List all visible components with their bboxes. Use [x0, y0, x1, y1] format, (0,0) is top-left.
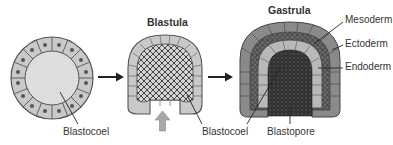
early-blastula [11, 37, 93, 124]
label-ectoderm: Ectoderm [345, 39, 388, 49]
label-blastopore: Blastopore [267, 127, 315, 137]
gastrula [240, 22, 343, 124]
gastrula-title: Gastrula [268, 5, 311, 16]
progression-arrow-2 [208, 73, 233, 82]
diagram-canvas [0, 0, 393, 145]
embryo-development-diagram: Blastula Gastrula Blastocoel Blastocoel … [0, 0, 393, 145]
label-blastocoel-2: Blastocoel [202, 127, 248, 137]
label-mesoderm: Mesoderm [345, 15, 392, 25]
label-endoderm: Endoderm [345, 62, 391, 72]
progression-arrow-1 [98, 73, 124, 82]
label-blastocoel-1: Blastocoel [63, 127, 109, 137]
invagination-arrow [155, 111, 170, 131]
blastula [128, 35, 202, 124]
blastula-title: Blastula [147, 17, 188, 28]
